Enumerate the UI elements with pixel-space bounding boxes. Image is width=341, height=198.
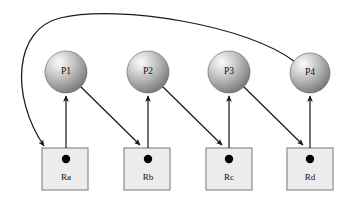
process-label: P4	[305, 67, 315, 77]
process-label: P1	[61, 66, 71, 76]
resource-token-dot	[144, 155, 152, 163]
process-label: P3	[224, 66, 234, 76]
resource-token-dot	[306, 155, 314, 163]
resource-node-ra[interactable]: Ra	[42, 148, 88, 190]
resource-box[interactable]	[287, 148, 333, 190]
process-node-p1[interactable]: P1	[45, 51, 87, 93]
process-node-p2[interactable]: P2	[127, 51, 169, 93]
resource-token-dot	[62, 155, 70, 163]
resource-token-dot	[225, 155, 233, 163]
resource-label: Ra	[61, 172, 71, 182]
edge-p1-to-rb[interactable]	[80, 86, 140, 145]
process-label: P2	[143, 66, 153, 76]
edge-p2-to-rc[interactable]	[162, 86, 222, 145]
resource-node-rd[interactable]: Rd	[287, 148, 333, 190]
resource-box[interactable]	[124, 148, 170, 190]
resource-node-rc[interactable]: Rc	[206, 148, 252, 190]
resource-nodes-group: Ra Rb Rc Rd	[42, 148, 333, 190]
resource-box[interactable]	[206, 148, 252, 190]
resource-label: Rc	[224, 172, 234, 182]
process-nodes-group: P1 P2 P3 P4	[45, 51, 330, 93]
resource-box[interactable]	[42, 148, 88, 190]
resource-node-rb[interactable]: Rb	[124, 148, 170, 190]
resource-label: Rb	[143, 172, 154, 182]
resource-allocation-diagram: Ra Rb Rc Rd	[0, 0, 341, 198]
resource-label: Rd	[305, 172, 316, 182]
process-node-p4[interactable]: P4	[290, 53, 330, 93]
process-node-p3[interactable]: P3	[208, 51, 250, 93]
edge-p3-to-rd[interactable]	[243, 86, 303, 145]
diagram-canvas: Ra Rb Rc Rd	[0, 0, 341, 198]
